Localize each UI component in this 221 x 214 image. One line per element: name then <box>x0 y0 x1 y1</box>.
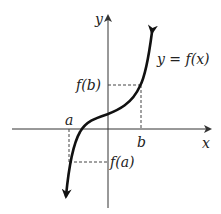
b-label: b <box>137 134 146 150</box>
dashed-guides <box>69 85 141 162</box>
y-axis-label: y <box>94 11 104 27</box>
fa-label: f(a) <box>109 154 134 170</box>
graph: y x y = f(x) f(b) b a f(a) <box>0 0 221 214</box>
curve-label: y = f(x) <box>156 51 210 67</box>
a-label: a <box>65 112 73 128</box>
curve-f <box>66 32 152 196</box>
x-axis-label: x <box>202 135 210 151</box>
fb-label: f(b) <box>75 77 101 93</box>
